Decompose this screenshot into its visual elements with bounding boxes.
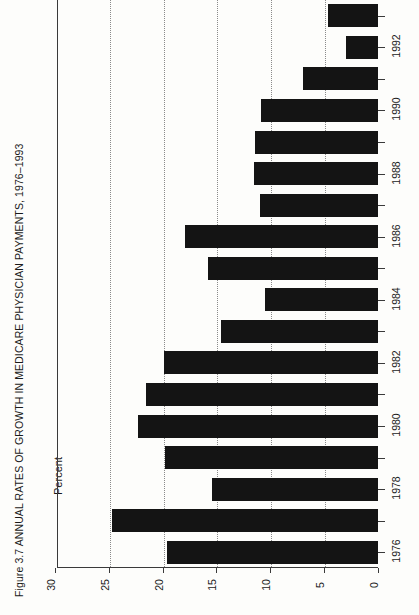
- bar-1986: [185, 225, 378, 248]
- bar-1977: [112, 509, 378, 532]
- year-tick-1989: [378, 142, 385, 143]
- figure-caption-text: Figure 3.7 ANNUAL RATES OF GROWTH IN MED…: [13, 144, 25, 597]
- value-tick-label-10: 10: [260, 570, 272, 600]
- year-tick-label-1978: 1978: [390, 466, 402, 510]
- bar-1980: [138, 415, 378, 438]
- plot-area: [57, 0, 378, 568]
- year-tick-1984: [378, 300, 385, 301]
- year-tick-1983: [378, 331, 385, 332]
- year-tick-1990: [378, 110, 385, 111]
- year-tick-label-1988: 1988: [390, 151, 402, 195]
- year-tick-1985: [378, 268, 385, 269]
- bar-1978: [212, 478, 378, 501]
- year-tick-label-1992: 1992: [390, 24, 402, 68]
- year-tick-1979: [378, 458, 385, 459]
- year-tick-label-1984: 1984: [390, 277, 402, 321]
- year-tick-1976: [378, 552, 385, 553]
- bar-1991: [303, 67, 378, 90]
- bar-1987: [260, 194, 378, 217]
- bar-1990: [261, 99, 378, 122]
- gridline-25: [110, 0, 111, 567]
- year-tick-1978: [378, 489, 385, 490]
- value-tick-label-30: 30: [45, 570, 57, 600]
- year-tick-1982: [378, 363, 385, 364]
- bar-1979: [165, 446, 378, 469]
- bar-1982: [164, 351, 378, 374]
- year-tick-1977: [378, 521, 385, 522]
- year-tick-label-1982: 1982: [390, 340, 402, 384]
- bar-1993: [328, 4, 378, 27]
- year-tick-1993: [378, 16, 385, 17]
- bar-1989: [255, 131, 378, 154]
- bar-1984: [265, 288, 378, 311]
- year-tick-1981: [378, 394, 385, 395]
- year-tick-1992: [378, 47, 385, 48]
- value-tick-label-20: 20: [153, 570, 165, 600]
- bar-1983: [221, 320, 378, 343]
- year-tick-1988: [378, 174, 385, 175]
- bar-1985: [208, 257, 378, 280]
- value-tick-label-25: 25: [99, 570, 111, 600]
- year-tick-1987: [378, 205, 385, 206]
- year-tick-label-1986: 1986: [390, 214, 402, 258]
- value-tick-label-0: 0: [368, 570, 380, 600]
- bar-1988: [254, 162, 378, 185]
- figure-caption: Figure 3.7 ANNUAL RATES OF GROWTH IN MED…: [13, 3, 35, 603]
- year-tick-label-1980: 1980: [390, 403, 402, 447]
- year-tick-1986: [378, 237, 385, 238]
- year-tick-label-1976: 1976: [390, 529, 402, 573]
- bar-1976: [167, 541, 378, 564]
- value-tick-label-15: 15: [206, 570, 218, 600]
- year-tick-1980: [378, 426, 385, 427]
- year-tick-label-1990: 1990: [390, 87, 402, 131]
- bar-1981: [146, 383, 378, 406]
- year-tick-1991: [378, 79, 385, 80]
- gridline-20: [164, 0, 165, 567]
- bar-1992: [346, 36, 378, 59]
- value-tick-label-5: 5: [314, 570, 326, 600]
